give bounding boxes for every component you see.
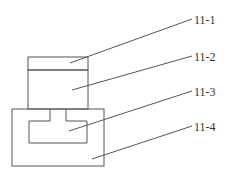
part-11-4-base-block (12, 109, 104, 166)
mechanical-diagram: 11-1 11-2 11-3 11-4 (0, 0, 227, 180)
label-11-1: 11-1 (194, 13, 216, 27)
label-11-2: 11-2 (194, 50, 216, 64)
leader-line-11-4 (92, 126, 192, 159)
part-11-1-top-cap (28, 57, 88, 70)
leader-line-11-2 (72, 56, 192, 90)
part-11-3-t-slot (29, 109, 87, 143)
leader-line-11-3 (69, 91, 192, 131)
part-11-2-upper-body (28, 70, 88, 109)
leader-line-11-1 (70, 19, 192, 63)
label-11-4: 11-4 (194, 120, 216, 134)
label-11-3: 11-3 (194, 85, 216, 99)
